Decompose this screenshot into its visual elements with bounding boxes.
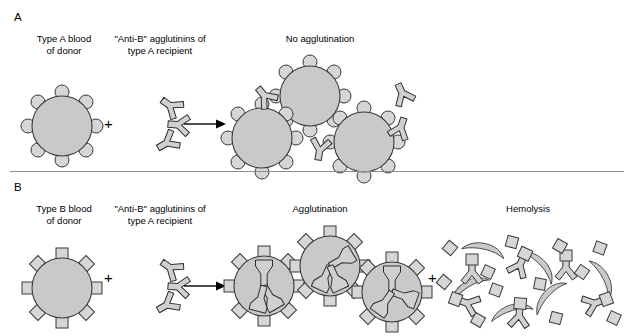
panel-b-graphics	[0, 0, 637, 336]
panel-b-hemolysis-field	[436, 235, 621, 329]
figure-canvas: A Type A blood of donor "Anti-B" aggluti…	[0, 0, 637, 336]
panel-b-arrow	[184, 282, 226, 291]
panel-b-donor-cell	[22, 248, 102, 328]
panel-b-agglutinated-cluster	[224, 226, 432, 332]
